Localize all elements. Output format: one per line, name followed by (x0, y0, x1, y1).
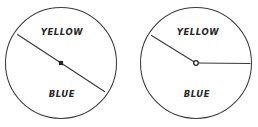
right-spinner-center-dot (194, 61, 199, 66)
right-spinner-pointer-arm-right (196, 63, 250, 64)
spinner-diagram: YELLOW BLUE YELLOW BLUE (0, 0, 258, 127)
left-spinner (6, 8, 117, 119)
left-spinner-label-blue: BLUE (49, 90, 76, 99)
spinner-drawing-canvas (0, 0, 258, 127)
left-spinner-center-dot (59, 61, 63, 65)
left-spinner-label-yellow: YELLOW (41, 28, 84, 37)
right-spinner-label-yellow: YELLOW (177, 28, 220, 37)
right-spinner-pointer-arm-upper-left (152, 36, 197, 64)
right-spinner-label-blue: BLUE (184, 90, 211, 99)
right-spinner (141, 8, 252, 119)
